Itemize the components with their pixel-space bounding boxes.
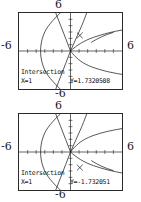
curve-lower-right <box>71 152 123 173</box>
axis-label-top-ymax: 6 <box>55 100 62 111</box>
axis-label-left-xmin: -6 <box>1 40 12 51</box>
intersection-cursor-bottom <box>77 165 83 171</box>
curve-upper-right <box>71 129 123 152</box>
curve-lower-left <box>56 51 71 89</box>
graph-plot-top <box>19 13 122 89</box>
calculator-screen-top: 6 -6 -6 6 <box>0 0 141 101</box>
curve-left-vertical <box>56 13 71 51</box>
calculator-screen-bottom: 6 -6 -6 6 <box>0 101 141 202</box>
axis-label-left-xmin: -6 <box>1 141 12 152</box>
curve-lower-right <box>71 51 123 74</box>
curve-left-vertical <box>56 114 71 152</box>
axis-label-right-xmax: 6 <box>127 40 134 51</box>
axis-label-right-xmax: 6 <box>127 141 134 152</box>
curve-extra-tail <box>92 32 114 42</box>
graph-viewport-top[interactable]: Intersection X=1 Y=1.7320508 <box>18 12 123 90</box>
curve-lower-left <box>56 152 71 190</box>
curve-steep-up <box>71 13 87 51</box>
curve-extra-tail <box>92 161 114 171</box>
curve-steep-up <box>71 114 87 152</box>
graph-plot-bottom <box>19 114 122 190</box>
axis-label-top-ymax: 6 <box>55 0 62 10</box>
graph-viewport-bottom[interactable]: Intersection X=1 Y=-1.732051 <box>18 113 123 191</box>
